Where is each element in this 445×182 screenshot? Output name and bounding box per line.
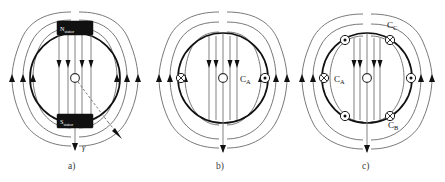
panel-c-caption: c) [362,161,369,172]
field-arrowheads-left [9,74,36,82]
gamma-axis: γ [72,142,86,152]
coil-marker-dot-lower-left [340,111,349,120]
field-arrowheads-right [114,74,141,82]
rotor-shaft [363,74,372,83]
panel-b-caption: b) [216,161,224,172]
coil-marker-dot-right [406,73,415,82]
coil-marker-cross-left [176,73,185,82]
coil-label-ca: CA [334,74,345,85]
magnetic-field-figure: Nstator Sstator γ a) [0,0,445,182]
north-stator-magnet: Nstator [57,21,93,35]
south-stator-magnet: Sstator [57,114,93,128]
coil-label-cb: CB [388,120,398,131]
gamma-axis-arrow [220,145,226,153]
panel-a-caption: a) [68,161,75,172]
panel-a-permanent-magnet-field: Nstator Sstator γ a) [0,0,150,182]
internal-field-lines [352,34,383,152]
gamma-axis-arrow [364,145,370,153]
panel-c-three-phase-field: CA CB CC c) [292,0,445,182]
coil-marker-dot-upper-left [340,35,349,44]
coil-marker-cross-upper-right [385,35,394,44]
coil-label-ca: CA [240,74,251,85]
rotor-shaft [71,74,80,83]
coil-label-cc: CC [387,20,397,31]
coil-marker-cross-left [319,73,328,82]
internal-field-lines [57,34,94,150]
rotor-shaft [219,74,228,83]
panel-b-single-phase-field: CA b) [148,0,298,182]
coil-marker-dot-right [260,73,269,82]
internal-field-lines [207,34,240,152]
gamma-label: γ [82,142,86,152]
